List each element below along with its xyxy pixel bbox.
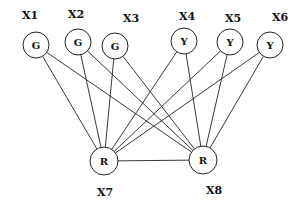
graph-diagram: GX1GX2GX3YX4YX5YX6RX7RX8: [0, 0, 300, 205]
node-x3: GX3: [102, 12, 139, 59]
node-value: G: [111, 41, 120, 52]
node-value: R: [199, 155, 208, 166]
edge-x6-x8: [210, 56, 263, 148]
edge-x2-x7: [81, 55, 101, 148]
node-x1: GX1: [22, 9, 49, 58]
node-value: G: [74, 37, 83, 48]
node-label: X3: [123, 12, 139, 25]
edges: [43, 51, 264, 161]
edge-x7-x8: [118, 160, 189, 161]
node-label: X5: [225, 12, 241, 25]
node-label: X8: [206, 184, 223, 197]
node-x4: YX4: [171, 10, 197, 54]
node-x8: RX8: [189, 146, 223, 197]
node-label: X2: [68, 8, 84, 21]
edge-x1-x7: [43, 56, 97, 149]
node-value: Y: [179, 36, 188, 47]
edge-x6-x7: [115, 52, 259, 153]
graph-canvas: GX1GX2GX3YX4YX5YX6RX7RX8: [0, 0, 300, 205]
edge-x1-x8: [47, 52, 192, 152]
node-label: X6: [272, 11, 289, 24]
node-label: X4: [179, 10, 196, 23]
node-x6: YX6: [257, 11, 289, 58]
edge-x5-x8: [206, 55, 227, 147]
node-value: R: [100, 156, 109, 167]
node-value: Y: [225, 37, 234, 48]
node-x2: GX2: [65, 8, 91, 55]
edge-x3-x8: [123, 56, 195, 149]
node-x5: YX5: [217, 12, 243, 55]
node-x7: RX7: [90, 147, 118, 199]
node-value: G: [32, 40, 41, 51]
node-value: Y: [265, 40, 274, 51]
node-label: X1: [22, 9, 38, 22]
edge-x4-x8: [186, 54, 201, 146]
node-label: X7: [97, 186, 113, 199]
nodes: GX1GX2GX3YX4YX5YX6RX7RX8: [22, 8, 289, 199]
